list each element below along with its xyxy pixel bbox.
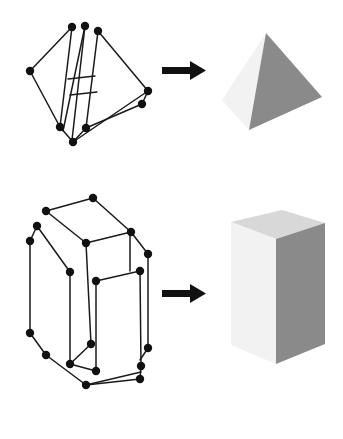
edge-b2-b5 (46, 211, 86, 243)
tetrahedron-row-svg (0, 0, 343, 180)
edge-b13-b19 (46, 355, 86, 385)
edge-b4-b8 (37, 226, 70, 272)
tetrahedron-wireframe (26, 22, 152, 146)
box-row-svg (0, 180, 343, 420)
edge-b12-b15 (70, 344, 91, 364)
vertex-node (66, 268, 74, 276)
vertex-node (81, 22, 89, 30)
vertex-node (127, 228, 135, 236)
edge-t3-t5 (98, 31, 148, 91)
arrow-right-icon (162, 61, 206, 80)
vertex-node (82, 239, 90, 247)
wireframe-edges (30, 26, 148, 142)
vertex-node (92, 277, 100, 285)
vertex-node (26, 329, 34, 337)
vertex-node (82, 124, 90, 132)
box-wireframe (26, 194, 152, 389)
vertex-node (87, 340, 95, 348)
vertex-node (137, 362, 145, 370)
figure-canvas (0, 0, 343, 439)
edge-b18-bottom (86, 379, 140, 385)
edge-t4-t7 (30, 71, 60, 127)
edge-t3-t8 (86, 31, 98, 128)
vertex-node (69, 138, 77, 146)
edge-b5-b12 (86, 243, 91, 344)
wireframe-nodes (26, 22, 152, 146)
vertex-node (94, 27, 102, 35)
edge-b9-b17 (140, 271, 141, 366)
box-face-left (231, 222, 276, 364)
box-face-right (276, 223, 325, 364)
edge-t8-t6 (86, 104, 142, 128)
vertex-node (144, 344, 152, 352)
edge-t5-t9 (73, 91, 148, 142)
vertex-node (26, 67, 34, 75)
vertex-node (136, 375, 144, 383)
box-solid (231, 210, 325, 364)
arrow-right-glyph (162, 61, 206, 80)
vertex-node (56, 123, 64, 131)
vertex-node (82, 381, 90, 389)
tetrahedron-solid (222, 33, 322, 130)
edge-t2-t8 (72, 26, 85, 140)
vertex-node (42, 351, 50, 359)
vertex-node (89, 194, 97, 202)
vertex-node (66, 360, 74, 368)
vertex-node (26, 237, 34, 245)
vertex-node (136, 267, 144, 275)
arrow-right-glyph (162, 284, 206, 303)
vertex-node (68, 23, 76, 31)
vertex-node (144, 87, 152, 95)
vertex-node (138, 100, 146, 108)
rung-lower (70, 92, 97, 95)
edge-b1-b3 (93, 198, 131, 232)
edge-b5-b3 (86, 232, 131, 243)
vertex-node (92, 367, 100, 375)
vertex-node (144, 250, 152, 258)
arrow-right-icon (162, 284, 206, 303)
edge-b1-b2 (46, 198, 93, 211)
edge-t1-t7 (60, 27, 72, 127)
row-tetrahedron (0, 0, 343, 180)
edge-t1-t4 (30, 27, 72, 71)
rung-upper (68, 76, 95, 79)
vertex-node (42, 207, 50, 215)
vertex-node (33, 222, 41, 230)
row-box (0, 180, 343, 420)
edge-b9-b10 (96, 271, 140, 281)
